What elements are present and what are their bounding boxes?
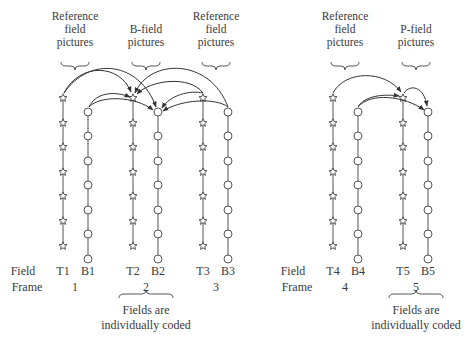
star-node-icon <box>329 94 337 102</box>
prediction-arrows <box>64 68 427 111</box>
circle-node-icon <box>154 157 162 165</box>
circle-node-icon <box>354 255 362 263</box>
arrow-t1-to-b2 <box>64 68 156 107</box>
arrow-b4-to-t5 <box>358 95 399 107</box>
group-label-line: Reference <box>156 10 276 23</box>
star-node-icon <box>199 192 207 200</box>
circle-node-icon <box>354 181 362 189</box>
bottom-note-line2: individually coded <box>356 318 466 332</box>
star-node-icon <box>59 242 67 250</box>
star-node-icon <box>399 168 407 176</box>
star-node-icon <box>399 242 407 250</box>
circle-node-icon <box>224 132 232 140</box>
star-node-icon <box>329 192 337 200</box>
circle-node-icon <box>424 206 432 214</box>
circle-node-icon <box>84 108 92 116</box>
field-column-b1 <box>84 108 92 263</box>
star-node-icon <box>59 94 67 102</box>
star-node-icon <box>199 143 207 151</box>
star-node-icon <box>199 94 207 102</box>
group-label-line: Reference <box>15 10 135 23</box>
circle-node-icon <box>84 132 92 140</box>
star-node-icon <box>129 143 137 151</box>
field-column-t3 <box>199 94 207 250</box>
star-node-icon <box>399 119 407 127</box>
field-columns <box>59 94 432 263</box>
group-label-line: P-field <box>356 23 466 36</box>
star-node-icon <box>59 217 67 225</box>
group-label-line: pictures <box>156 36 276 49</box>
star-node-icon <box>199 119 207 127</box>
star-node-icon <box>399 143 407 151</box>
circle-node-icon <box>224 206 232 214</box>
circle-node-icon <box>354 206 362 214</box>
circle-node-icon <box>84 255 92 263</box>
star-node-icon <box>199 168 207 176</box>
field-column-b5 <box>424 108 432 263</box>
star-node-icon <box>329 119 337 127</box>
field-column-t1 <box>59 94 67 250</box>
arrow-t3-to-b2 <box>162 92 203 108</box>
star-node-icon <box>329 242 337 250</box>
group-label-line: Reference <box>285 10 405 23</box>
circle-node-icon <box>84 181 92 189</box>
field-label-b5: B5 <box>368 264 466 278</box>
field-column-b3 <box>224 108 232 263</box>
arrow-t4-to-t5 <box>333 76 401 93</box>
group-label-line: pictures <box>356 36 466 49</box>
circle-node-icon <box>224 157 232 165</box>
circle-node-icon <box>424 230 432 238</box>
circle-node-icon <box>354 230 362 238</box>
arrow-b1-to-b2 <box>89 99 153 110</box>
circle-node-icon <box>224 255 232 263</box>
star-node-icon <box>199 242 207 250</box>
group-label-line: field <box>156 23 276 36</box>
field-row-label: Field <box>233 264 353 278</box>
field-column-b2 <box>154 108 162 263</box>
star-node-icon <box>199 217 207 225</box>
arrow-b4-to-b5 <box>358 97 424 110</box>
circle-node-icon <box>154 230 162 238</box>
field-row-label: Field <box>0 264 83 278</box>
circle-node-icon <box>224 108 232 116</box>
star-node-icon <box>129 119 137 127</box>
circle-node-icon <box>224 230 232 238</box>
bottom-note-line2: individually coded <box>86 318 206 332</box>
bottom-note-line1: Fields are <box>356 303 466 317</box>
circle-node-icon <box>154 255 162 263</box>
field-column-b4 <box>354 108 362 263</box>
circle-node-icon <box>354 108 362 116</box>
star-node-icon <box>59 192 67 200</box>
star-node-icon <box>399 217 407 225</box>
circle-node-icon <box>354 132 362 140</box>
frame-number-5: 5 <box>356 280 466 294</box>
circle-node-icon <box>424 181 432 189</box>
field-column-t2 <box>129 94 137 250</box>
star-node-icon <box>329 168 337 176</box>
star-node-icon <box>59 143 67 151</box>
star-node-icon <box>129 217 137 225</box>
circle-node-icon <box>154 206 162 214</box>
star-node-icon <box>129 192 137 200</box>
field-column-t4 <box>329 94 337 250</box>
circle-node-icon <box>354 157 362 165</box>
star-node-icon <box>59 119 67 127</box>
field-column-t5 <box>399 94 407 250</box>
circle-node-icon <box>84 230 92 238</box>
circle-node-icon <box>424 255 432 263</box>
star-node-icon <box>329 217 337 225</box>
circle-node-icon <box>154 181 162 189</box>
bottom-note-line1: Fields are <box>86 303 206 317</box>
arrow-t5-to-b5 <box>404 88 427 106</box>
arrow-b3-to-b2 <box>163 101 228 111</box>
circle-node-icon <box>424 108 432 116</box>
arrow-b1-to-t2 <box>89 94 130 107</box>
circle-node-icon <box>224 181 232 189</box>
star-node-icon <box>399 192 407 200</box>
circle-node-icon <box>424 132 432 140</box>
circle-node-icon <box>424 157 432 165</box>
circle-node-icon <box>84 206 92 214</box>
star-node-icon <box>129 242 137 250</box>
star-node-icon <box>129 168 137 176</box>
star-node-icon <box>59 168 67 176</box>
